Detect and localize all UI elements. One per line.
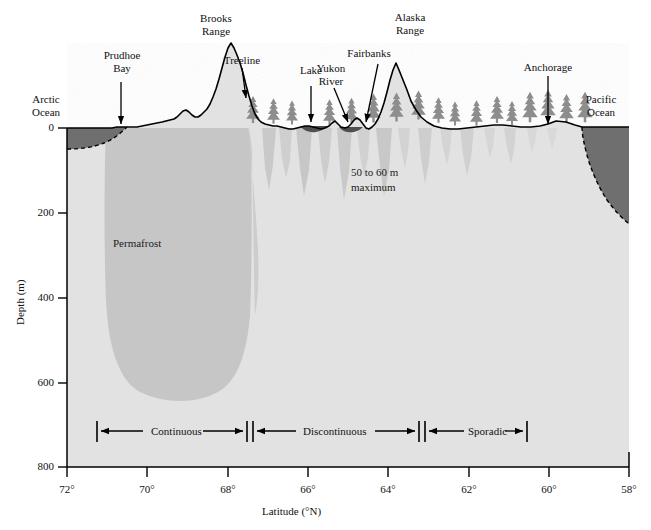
annotation-thin-permafrost-line2: maximum [351, 181, 396, 193]
label-pacific-ocean-line2: Ocean [573, 106, 629, 119]
zone-label-continuous: Continuous [151, 425, 202, 437]
y-tick-600: 600 [22, 376, 54, 388]
x-tick-70: 70° [135, 483, 159, 495]
x-tick-64: 64° [376, 483, 400, 495]
zone-label-sporadic: Sporadic [468, 425, 507, 437]
y-tick-400: 400 [22, 291, 54, 303]
label-yukon-river-line1: Yukon [306, 62, 356, 75]
label-treeline-line1: Treeline [213, 54, 271, 67]
y-axis-ticks [58, 128, 67, 467]
y-tick-200: 200 [22, 206, 54, 218]
zone-label-discontinuous: Discontinuous [303, 425, 367, 437]
x-axis-ticks [67, 467, 629, 477]
label-yukon-river-line2: River [306, 75, 356, 88]
label-prudhoe-bay-line1: Prudhoe [91, 49, 153, 62]
label-anchorage: Anchorage [508, 61, 588, 74]
label-brooks-range-line1: Brooks [186, 12, 246, 25]
label-arctic-ocean-line2: Ocean [18, 106, 74, 119]
label-alaska-range: Alaska Range [380, 11, 440, 37]
y-axis-title: Depth (m) [14, 279, 26, 325]
label-pacific-ocean: Pacific Ocean [573, 93, 629, 119]
permafrost-lobe-continuous [105, 128, 252, 401]
label-yukon-river: Yukon River [306, 62, 356, 88]
x-tick-72: 72° [55, 483, 79, 495]
label-prudhoe-bay: Prudhoe Bay [91, 49, 153, 75]
annotation-thin-permafrost-line1: 50 to 60 m [351, 166, 398, 178]
x-axis-title: Latitude (°N) [262, 505, 321, 517]
x-tick-58: 58° [617, 483, 641, 495]
x-tick-66: 66° [296, 483, 320, 495]
label-brooks-range-line2: Range [186, 25, 246, 38]
label-anchorage-line1: Anchorage [508, 61, 588, 74]
label-fairbanks: Fairbanks [337, 47, 401, 60]
label-arctic-ocean-line1: Arctic [18, 93, 74, 106]
label-treeline: Treeline [213, 54, 271, 67]
label-prudhoe-bay-line2: Bay [91, 62, 153, 75]
label-brooks-range: Brooks Range [186, 12, 246, 38]
y-tick-0: 0 [36, 121, 54, 133]
label-pacific-ocean-line1: Pacific [573, 93, 629, 106]
x-tick-60: 60° [537, 483, 561, 495]
label-alaska-range-line2: Range [380, 24, 440, 37]
x-tick-62: 62° [457, 483, 481, 495]
x-tick-68: 68° [216, 483, 240, 495]
yukon-river-arrow [334, 88, 348, 122]
y-tick-800: 800 [22, 460, 54, 472]
label-fairbanks-line1: Fairbanks [337, 47, 401, 60]
label-arctic-ocean: Arctic Ocean [18, 93, 74, 119]
label-alaska-range-line1: Alaska [380, 11, 440, 24]
annotation-permafrost: Permafrost [113, 237, 161, 249]
